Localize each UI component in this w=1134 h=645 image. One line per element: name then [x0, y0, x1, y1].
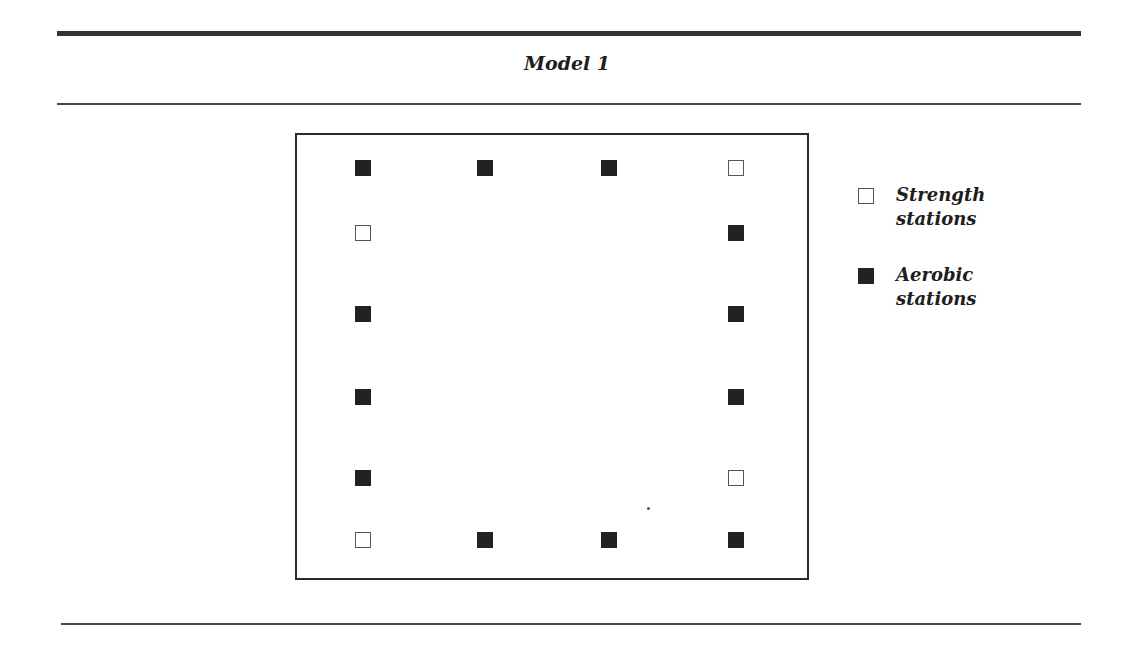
aerobic-station-icon	[858, 268, 874, 284]
strength-station-icon	[355, 532, 371, 548]
aerobic-station-icon	[601, 532, 617, 548]
aerobic-station-icon	[728, 225, 744, 241]
stray-dot	[647, 507, 650, 510]
aerobic-station-icon	[728, 389, 744, 405]
aerobic-station-icon	[355, 160, 371, 176]
title-divider	[57, 103, 1081, 105]
strength-station-icon	[728, 470, 744, 486]
figure-title: Model 1	[0, 52, 1134, 74]
aerobic-station-icon	[728, 532, 744, 548]
room-layout-frame	[295, 133, 809, 580]
aerobic-station-icon	[477, 160, 493, 176]
aerobic-station-icon	[355, 306, 371, 322]
legend-label-strength: Strength stations	[896, 183, 985, 231]
legend-label-aerobic: Aerobic stations	[896, 263, 977, 311]
aerobic-station-icon	[355, 470, 371, 486]
strength-station-icon	[355, 225, 371, 241]
top-rule	[57, 31, 1081, 36]
aerobic-station-icon	[728, 306, 744, 322]
aerobic-station-icon	[477, 532, 493, 548]
aerobic-station-icon	[601, 160, 617, 176]
strength-station-icon	[858, 188, 874, 204]
strength-station-icon	[728, 160, 744, 176]
aerobic-station-icon	[355, 389, 371, 405]
bottom-rule	[61, 623, 1081, 625]
